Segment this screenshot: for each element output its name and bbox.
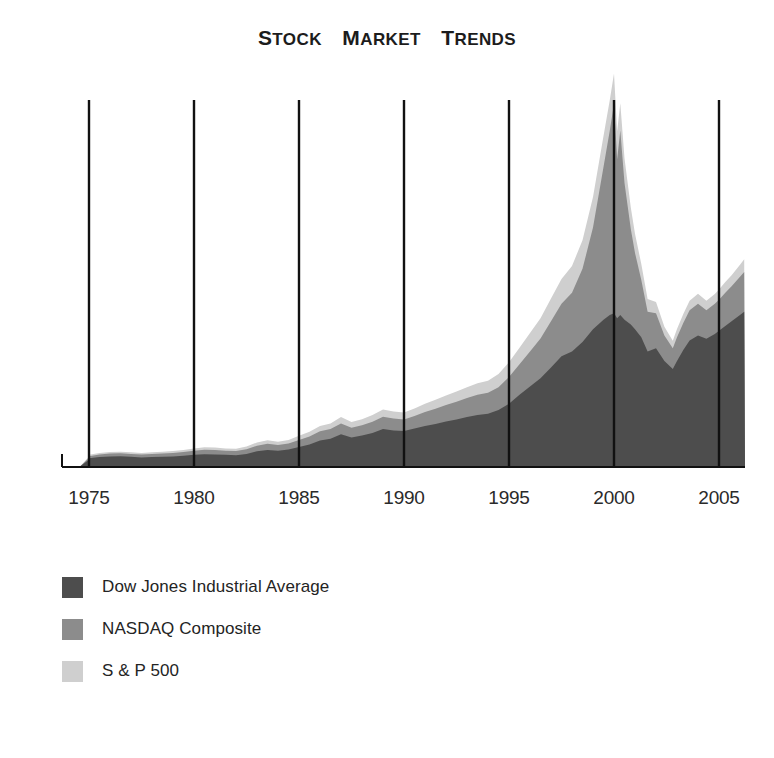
stacked-area-chart [0, 0, 774, 500]
dow-jones-swatch [62, 577, 83, 598]
legend-label: Dow Jones Industrial Average [102, 577, 329, 597]
x-tick-label-1985: 1985 [259, 487, 339, 509]
x-tick-label-1990: 1990 [364, 487, 444, 509]
legend-label: NASDAQ Composite [102, 619, 261, 639]
stock-market-trends-figure: STOCK MARKET TRENDS 19751980198519901995… [0, 0, 774, 758]
chart-plot-area [0, 0, 774, 500]
x-tick-label-1980: 1980 [154, 487, 234, 509]
legend-item[interactable]: S & P 500 [62, 658, 542, 684]
legend-label: S & P 500 [102, 661, 179, 681]
chart-legend: Dow Jones Industrial AverageNASDAQ Compo… [62, 574, 542, 700]
series-layer [81, 74, 745, 466]
sp500-swatch [62, 661, 83, 682]
x-tick-label-1975: 1975 [49, 487, 129, 509]
nasdaq-swatch [62, 619, 83, 640]
x-axis-tick-labels: 1975198019851990199520002005 [0, 487, 774, 517]
x-tick-label-2005: 2005 [679, 487, 759, 509]
x-tick-label-1995: 1995 [469, 487, 549, 509]
x-tick-label-2000: 2000 [574, 487, 654, 509]
legend-item[interactable]: Dow Jones Industrial Average [62, 574, 542, 600]
legend-item[interactable]: NASDAQ Composite [62, 616, 542, 642]
